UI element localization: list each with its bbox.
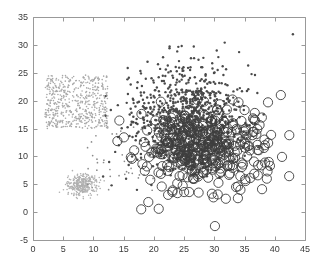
x-axis-tick-label: 40	[270, 245, 280, 254]
x-axis-tick-label: 0	[30, 245, 35, 254]
scatter-plot-figure: 051015202530354045-505101520253035	[0, 0, 324, 265]
y-axis-tick-label: 35	[6, 13, 28, 22]
x-axis-tick-label: 10	[88, 245, 98, 254]
x-axis-tick-label: 15	[119, 245, 129, 254]
y-axis-tick-label: 15	[6, 124, 28, 133]
x-axis-tick-label: 35	[240, 245, 250, 254]
x-axis-tick-label: 30	[209, 245, 219, 254]
scatter-plot-canvas	[0, 0, 324, 265]
x-axis-tick-label: 5	[61, 245, 66, 254]
x-axis-tick-label: 25	[179, 245, 189, 254]
x-axis-tick-label: 20	[149, 245, 159, 254]
y-axis-tick-label: -5	[6, 236, 28, 245]
y-axis-tick-label: 30	[6, 40, 28, 49]
x-axis-tick-label: 45	[300, 245, 310, 254]
y-axis-tick-label: 5	[6, 180, 28, 189]
y-axis-tick-label: 20	[6, 96, 28, 105]
y-axis-tick-label: 0	[6, 208, 28, 217]
y-axis-tick-label: 25	[6, 68, 28, 77]
y-axis-tick-label: 10	[6, 152, 28, 161]
